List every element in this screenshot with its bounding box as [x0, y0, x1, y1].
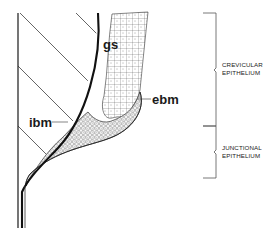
label-ebm: ebm	[152, 92, 179, 107]
crevicular-label-line2: EPITHELIUM	[222, 69, 260, 76]
junctional-label-line1: JUNCTIONAL	[222, 144, 262, 151]
epithelium-diagram: gs ibm ebm CREVICULAR EPITHELIUM JUNCTIO…	[0, 0, 279, 228]
crevicular-bracket	[203, 13, 216, 126]
label-gs: gs	[103, 37, 118, 52]
label-ibm: ibm	[29, 115, 52, 130]
crevicular-label-line1: CREVICULAR	[222, 61, 263, 68]
junctional-bracket	[203, 126, 216, 178]
junctional-label-line2: EPITHELIUM	[222, 152, 260, 159]
